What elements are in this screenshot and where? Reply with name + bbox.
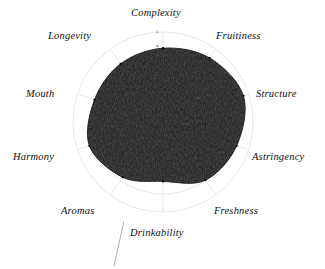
tick-label-inner: 4 xyxy=(156,43,159,48)
axis-label-fruitiness: Fruitiness xyxy=(216,31,261,42)
axis-label-harmony: Harmony xyxy=(13,152,54,163)
axis-label-astringency: Astringency xyxy=(252,152,304,163)
axis-label-complexity: Complexity xyxy=(131,8,181,19)
axis-label-aromas: Aromas xyxy=(61,206,94,217)
axis-label-longevity: Longevity xyxy=(48,31,91,42)
axis-label-structure: Structure xyxy=(256,89,297,100)
axis-label-freshness: Freshness xyxy=(214,206,258,217)
axis-label-drinkability: Drinkability xyxy=(130,228,184,239)
axis-label-mouth: Mouth xyxy=(26,89,54,100)
tick-label-outer: 5 xyxy=(156,29,159,34)
radar-chart: Complexity Fruitiness Structure Astringe… xyxy=(0,0,325,269)
drinkability-leader-line xyxy=(114,221,124,266)
